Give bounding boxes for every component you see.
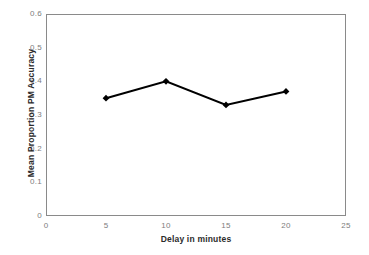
x-axis-tick-label: 10: [151, 221, 181, 230]
chart-figure: 00.10.20.30.40.50.6 0510152025 Mean Prop…: [0, 0, 369, 255]
x-axis-tick-label: 20: [271, 221, 301, 230]
x-axis-tick-label: 5: [91, 221, 121, 230]
x-axis-tick-labels: 0510152025: [0, 0, 369, 255]
x-axis-tick-label: 25: [331, 221, 361, 230]
x-axis-tick-label: 15: [211, 221, 241, 230]
y-axis-title: Mean Proportion PM Accuracy: [26, 33, 36, 193]
x-axis-title: Delay in minutes: [46, 234, 346, 244]
x-axis-tick-label: 0: [31, 221, 61, 230]
